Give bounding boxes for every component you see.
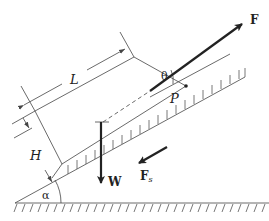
incline-hatching xyxy=(68,68,245,174)
friction-subscript: s xyxy=(149,175,153,184)
weight-label: W xyxy=(107,175,122,189)
point-p-label: P xyxy=(169,91,179,106)
theta-arc xyxy=(171,70,173,84)
height-label: H xyxy=(29,148,42,163)
friction-label: Fs xyxy=(140,169,153,184)
point-p xyxy=(184,84,188,88)
friction-arrow xyxy=(139,147,167,163)
length-dimension: L xyxy=(21,32,134,111)
height-dimension: H xyxy=(12,111,62,182)
force-line-of-action xyxy=(103,91,150,122)
force-f-label: F xyxy=(250,13,259,27)
inclined-plane-diagram: α θ F P W Fs L H xyxy=(0,0,269,221)
force-f-arrow xyxy=(150,24,242,91)
length-label: L xyxy=(69,72,79,87)
alpha-label: α xyxy=(42,189,50,202)
ground-hatching xyxy=(14,204,265,212)
incline xyxy=(15,68,245,203)
ground xyxy=(14,203,269,212)
